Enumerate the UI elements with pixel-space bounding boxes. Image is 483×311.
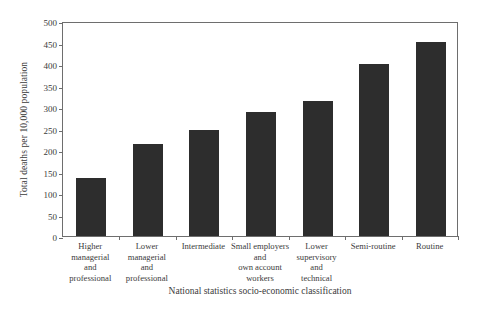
y-axis-tick-label: 300 xyxy=(29,103,57,115)
bar[interactable] xyxy=(416,42,446,236)
x-axis-tick-label-line: and xyxy=(228,252,293,263)
x-axis-tick-mark xyxy=(119,236,120,240)
bar[interactable] xyxy=(246,112,276,236)
x-axis-tick-mark xyxy=(458,236,459,240)
bar[interactable] xyxy=(303,101,333,236)
x-axis-tick-label-line: own account xyxy=(228,262,293,273)
x-axis-tick-mark xyxy=(176,236,177,240)
x-axis-tick-label: Lowermanagerialandprofessional xyxy=(115,241,180,283)
x-axis-tick-label-line: professional xyxy=(115,273,180,284)
x-axis-tick-label-line: and xyxy=(115,262,180,273)
y-axis-tick-label: 250 xyxy=(29,125,57,137)
y-axis-tick-mark xyxy=(59,238,63,239)
bar[interactable] xyxy=(359,64,389,236)
y-axis-tick-label: 400 xyxy=(29,60,57,72)
y-axis-tick-label: 200 xyxy=(29,146,57,158)
x-axis-tick-label-line: supervisory xyxy=(284,252,349,263)
bar-slot xyxy=(176,23,233,236)
bar-slot xyxy=(289,23,346,236)
x-axis-title: National statistics socio-economic class… xyxy=(62,286,458,296)
x-axis-tick-label: Routine xyxy=(397,241,462,252)
x-axis-tick-label-line: Small employers xyxy=(228,241,293,252)
x-axis-tick-label-line: managerial xyxy=(115,252,180,263)
y-axis-tick-label: 450 xyxy=(29,39,57,51)
x-axis-tick-label: Semi-routine xyxy=(341,241,406,252)
plot-area: 050100150200250300350400450500 xyxy=(62,22,458,237)
x-axis-tick-mark xyxy=(232,236,233,240)
x-axis-tick-label-line: technical xyxy=(284,273,349,284)
y-axis-tick-label: 350 xyxy=(29,82,57,94)
x-axis-tick-label-line: workers xyxy=(228,273,293,284)
bar[interactable] xyxy=(76,178,106,236)
x-axis-tick-label-line: Lower xyxy=(284,241,349,252)
bar[interactable] xyxy=(189,130,219,236)
y-axis-tick-label: 50 xyxy=(29,211,57,223)
x-axis-tick-label-line: professional xyxy=(58,273,123,284)
x-axis-tick-labels: HighermanagerialandprofessionalLowermana… xyxy=(62,241,458,287)
x-axis-tick-label-line: Semi-routine xyxy=(341,241,406,252)
bar-slot xyxy=(63,23,120,236)
bar-chart-figure: Total deaths per 10,000 population 05010… xyxy=(0,0,483,311)
x-axis-tick-label-line: managerial xyxy=(58,252,123,263)
bar-slot xyxy=(346,23,403,236)
x-axis-tick-label: Intermediate xyxy=(171,241,236,252)
bar[interactable] xyxy=(133,144,163,236)
x-axis-tick-label-line: and xyxy=(284,262,349,273)
y-axis-tick-label: 150 xyxy=(29,168,57,180)
x-axis-tick-mark xyxy=(345,236,346,240)
x-axis-tick-label: Lowersupervisoryandtechnical xyxy=(284,241,349,283)
y-axis-tick-label: 100 xyxy=(29,189,57,201)
x-axis-tick-label-line: Intermediate xyxy=(171,241,236,252)
x-axis-tick-label-line: Routine xyxy=(397,241,462,252)
bar-slot xyxy=(402,23,459,236)
x-axis-tick-mark xyxy=(289,236,290,240)
x-axis-tick-mark xyxy=(402,236,403,240)
x-axis-tick-label-line: Lower xyxy=(115,241,180,252)
bar-slot xyxy=(120,23,177,236)
bar-slot xyxy=(233,23,290,236)
x-axis-tick-label: Small employersandown accountworkers xyxy=(228,241,293,283)
x-axis-tick-label-line: Higher xyxy=(58,241,123,252)
x-axis-tick-label: Highermanagerialandprofessional xyxy=(58,241,123,283)
x-axis-tick-label-line: and xyxy=(58,262,123,273)
y-axis-tick-label: 0 xyxy=(29,232,57,244)
y-axis-tick-label: 500 xyxy=(29,17,57,29)
